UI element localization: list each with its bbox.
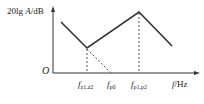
- tick-label-fp1p2: fp1,p2: [131, 80, 147, 90]
- x-axis-label: f/Hz: [172, 80, 188, 89]
- tick-label-fz1z2: fz1,z2: [78, 80, 93, 90]
- tick-sub: p0: [110, 84, 116, 90]
- y-axis-label-prefix: 20lg: [7, 6, 25, 16]
- tick-sub: p1,p2: [134, 84, 148, 90]
- x-axis-arrow-icon: [194, 71, 200, 75]
- y-axis-arrow-icon: [51, 6, 55, 12]
- magnitude-curve: [61, 12, 172, 48]
- origin-label: O: [42, 66, 49, 76]
- tick-sub: z1,z2: [81, 84, 94, 90]
- dashed-guide-fp0: [87, 49, 111, 73]
- x-axis-label-unit: /Hz: [175, 79, 188, 89]
- y-axis-label-unit: /dB: [31, 6, 44, 16]
- y-axis-label: 20lg A/dB: [7, 7, 44, 16]
- tick-label-fp0: fp0: [107, 80, 116, 90]
